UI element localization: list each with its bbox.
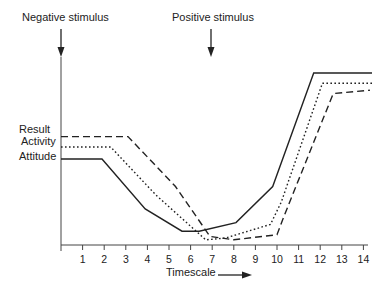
series-line-attitude [61,73,372,231]
x-tick-label: 3 [123,253,129,265]
x-tick-label: 9 [252,253,258,265]
series-lines [61,73,372,240]
x-tick-label: 4 [144,253,150,265]
x-tick-label: 8 [231,253,237,265]
x-tick-label: 12 [314,253,326,265]
negative-stimulus-arrow-icon [58,29,65,57]
series-line-activity [61,83,372,240]
x-tick-label: 13 [336,253,348,265]
positive-stimulus-arrow-icon [208,29,215,57]
x-tick-label: 6 [188,253,194,265]
line-chart: 1234567891011121314 [0,0,389,298]
x-tick-label: 1 [80,253,86,265]
x-tick-label: 14 [358,253,370,265]
x-tick-label: 10 [271,253,283,265]
x-tick-label: 7 [209,253,215,265]
timescale-arrow-icon [218,272,252,279]
x-tick-label: 11 [293,253,304,265]
x-tick-label: 5 [166,253,172,265]
x-tick-label: 2 [101,253,107,265]
x-axis-ticks: 1234567891011121314 [80,245,370,265]
